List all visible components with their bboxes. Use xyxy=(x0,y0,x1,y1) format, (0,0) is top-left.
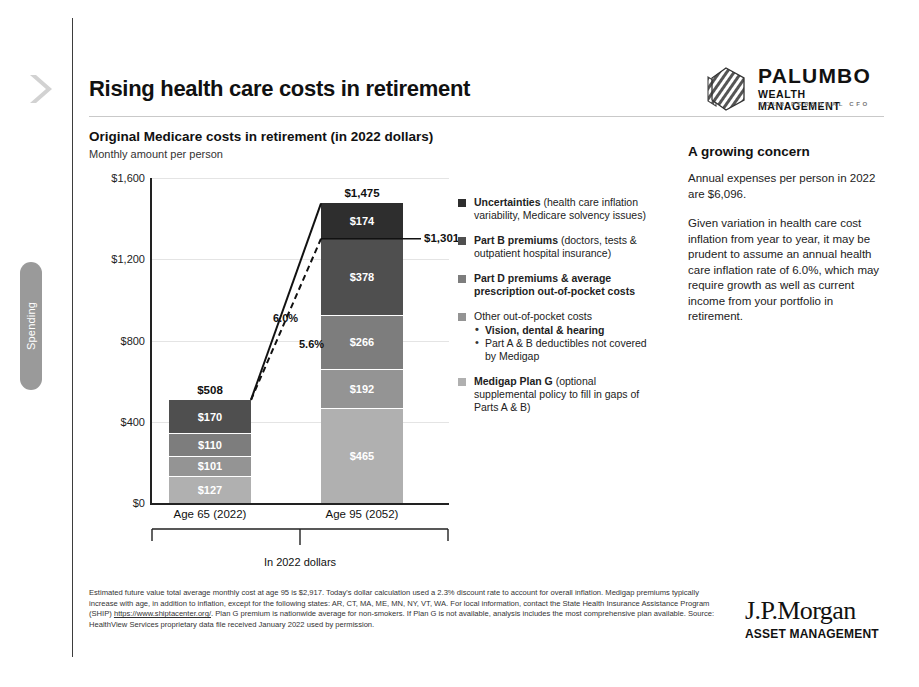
bracket-label: In 2022 dollars xyxy=(150,556,450,568)
growth-rate-dashed-label: 5.6% xyxy=(299,338,324,350)
chart-legend: Uncertainties (health care inflation var… xyxy=(458,196,658,426)
bar-segment: $266 xyxy=(321,316,403,370)
bar-stack: $170$110$101$127 xyxy=(169,400,251,503)
bar-segment-label: $266 xyxy=(321,336,403,348)
bar-total-label: $508 xyxy=(169,384,251,396)
legend-sub-item: Vision, dental & hearing xyxy=(474,324,658,337)
legend-item: Uncertainties (health care inflation var… xyxy=(458,196,658,222)
sidebar-tab-spending-label: Spending xyxy=(25,302,37,350)
footnote: Estimated future value total average mon… xyxy=(89,588,719,630)
legend-item-label: Uncertainties (health care inflation var… xyxy=(474,196,658,222)
legend-color-swatch xyxy=(458,378,466,386)
y-axis-tick-label: $1,600 xyxy=(89,172,145,184)
callout-total-label: $1,301 xyxy=(424,232,459,244)
palumbo-logo: PALUMBO WEALTH MANAGEMENT YOUR PERSONAL … xyxy=(700,64,885,114)
bar-segment: $378 xyxy=(321,239,403,316)
legend-sub-list: Vision, dental & hearingPart A & B deduc… xyxy=(474,324,658,363)
bar-segment: $170 xyxy=(169,400,251,435)
legend-color-swatch xyxy=(458,275,466,283)
bar-segment: $127 xyxy=(169,477,251,503)
panel-paragraph-1: Annual expenses per person in 2022 are $… xyxy=(688,171,880,202)
chart-title: Original Medicare costs in retirement (i… xyxy=(89,129,433,144)
growth-rate-solid-label: 6.0% xyxy=(273,312,298,324)
bar-segment-label: $192 xyxy=(321,383,403,395)
slide-root: Spending Rising health care costs in ret… xyxy=(0,0,919,687)
range-bracket xyxy=(150,527,450,549)
panel-paragraph-2: Given variation in health care cost infl… xyxy=(688,216,880,325)
legend-item-label: Part B premiums (doctors, tests & outpat… xyxy=(474,234,658,260)
header-divider xyxy=(89,116,884,117)
bar-total-label: $1,475 xyxy=(321,187,403,199)
y-axis-tick-label: $1,200 xyxy=(89,253,145,265)
legend-color-swatch xyxy=(458,237,466,245)
x-axis-category-label: Age 95 (2052) xyxy=(299,508,425,520)
legend-item: Part B premiums (doctors, tests & outpat… xyxy=(458,234,658,260)
bar-segment-label: $170 xyxy=(169,411,251,423)
legend-color-swatch xyxy=(458,199,466,207)
bar-segment: $192 xyxy=(321,370,403,409)
legend-item: Medigap Plan G (optional supplemental po… xyxy=(458,375,658,414)
bar-stack: $174$378$266$192$465 xyxy=(321,203,403,503)
logo-tagline: YOUR PERSONAL CFO xyxy=(759,101,870,107)
bar-segment-label: $378 xyxy=(321,271,403,283)
bar-segment: $174 xyxy=(321,203,403,238)
gridline xyxy=(152,259,449,260)
legend-item: Other out-of-pocket costsVision, dental … xyxy=(458,310,658,363)
bar-segment-label: $110 xyxy=(169,439,251,451)
hexagon-stripes-icon xyxy=(700,66,748,116)
bar-segment-label: $174 xyxy=(321,215,403,227)
legend-color-swatch xyxy=(458,313,466,321)
legend-item-label: Medigap Plan G (optional supplemental po… xyxy=(474,375,658,414)
bar-segment-label: $465 xyxy=(321,450,403,462)
jpm-subtitle: ASSET MANAGEMENT xyxy=(745,627,879,641)
page-title: Rising health care costs in retirement xyxy=(89,76,470,102)
jpm-name: J.P.Morgan xyxy=(745,596,879,626)
bar-segment: $465 xyxy=(321,409,403,503)
growing-concern-panel: A growing concern Annual expenses per pe… xyxy=(688,144,880,339)
left-rail: Spending xyxy=(0,0,72,687)
logo-subtitle: WEALTH MANAGEMENT xyxy=(758,88,885,112)
bar-segment: $101 xyxy=(169,457,251,478)
y-axis-tick-label: $0 xyxy=(89,497,145,509)
y-axis-tick-label: $400 xyxy=(89,416,145,428)
bar-segment-label: $101 xyxy=(169,460,251,472)
chevron-right-icon[interactable] xyxy=(26,72,56,106)
bar-segment: $110 xyxy=(169,434,251,456)
ship-link[interactable]: https://www.shiptacenter.org/ xyxy=(114,609,211,618)
x-axis-category-label: Age 65 (2022) xyxy=(147,508,273,520)
y-axis-line xyxy=(150,178,152,505)
vertical-divider xyxy=(72,18,73,657)
legend-sub-item: Part A & B deductibles not covered by Me… xyxy=(474,337,658,363)
sidebar-tab-spending[interactable]: Spending xyxy=(20,262,42,390)
x-axis-line xyxy=(150,503,449,505)
y-axis-tick-label: $800 xyxy=(89,335,145,347)
chart-subtitle: Monthly amount per person xyxy=(89,148,223,160)
bar-segment-label: $127 xyxy=(169,484,251,496)
legend-item: Part D premiums & average prescription o… xyxy=(458,272,658,298)
panel-heading: A growing concern xyxy=(688,144,880,159)
jpmorgan-logo: J.P.Morgan ASSET MANAGEMENT xyxy=(745,596,879,641)
legend-item-label: Other out-of-pocket costs xyxy=(474,310,658,323)
logo-name: PALUMBO xyxy=(758,64,871,88)
chart-plot-area: $0$400$800$1,200$1,600 $170$110$101$127$… xyxy=(89,170,449,525)
legend-item-label: Part D premiums & average prescription o… xyxy=(474,272,658,298)
gridline xyxy=(152,178,449,179)
